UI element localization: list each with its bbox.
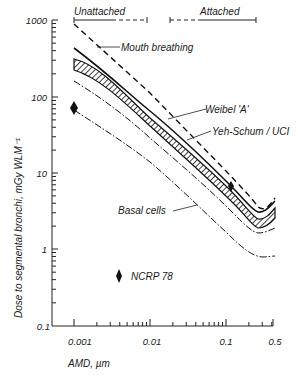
y-tick-10: 10 bbox=[36, 168, 47, 179]
x-tick-0.01: 0.01 bbox=[143, 336, 162, 347]
ncrp-diamond-marker bbox=[116, 269, 122, 283]
ncrp-label: NCRP 78 bbox=[131, 271, 173, 282]
y-tick-0.1: 0.1 bbox=[37, 321, 50, 332]
basal-cells-label: Basal cells bbox=[118, 205, 166, 216]
y-tick-100: 100 bbox=[31, 92, 48, 103]
attached-label: Attached bbox=[199, 6, 240, 17]
x-axis-label: AMD, µm bbox=[67, 358, 110, 369]
weibel-leader bbox=[168, 109, 206, 119]
unattached-label: Unattached bbox=[74, 6, 126, 17]
mouth-breathing-label: Mouth breathing bbox=[121, 42, 194, 53]
diamond-marker-left bbox=[70, 101, 78, 115]
x-axis bbox=[52, 319, 273, 326]
x-tick-0.001: 0.001 bbox=[68, 336, 92, 347]
yeh-schum-label: Yeh-Schum / UCI bbox=[212, 126, 289, 137]
unattached-bracket bbox=[74, 17, 147, 23]
y-tick-1000: 1000 bbox=[26, 15, 48, 26]
x-tick-0.1: 0.1 bbox=[219, 336, 232, 347]
y-axis-label: Dose to segmental bronchi, mGy WLM⁻¹ bbox=[13, 137, 24, 318]
weibel-label: Weibel 'A' bbox=[205, 104, 250, 115]
y-tick-1: 1 bbox=[42, 244, 47, 255]
basal-leader bbox=[173, 205, 197, 211]
x-tick-0.5: 0.5 bbox=[268, 336, 282, 347]
attached-bracket bbox=[170, 17, 256, 23]
dose-vs-amd-chart: 1000 100 10 1 0.1 0.001 0.01 0.1 0.5 AMD… bbox=[0, 0, 298, 377]
hatched-band bbox=[74, 59, 275, 228]
y-axis bbox=[52, 20, 58, 326]
